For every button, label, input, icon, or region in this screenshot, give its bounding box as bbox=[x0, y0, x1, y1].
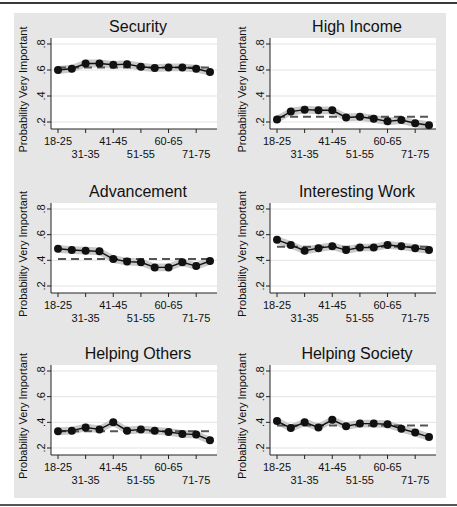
data-point bbox=[273, 236, 281, 244]
x-tick-label: 41-45 bbox=[318, 299, 346, 311]
data-point bbox=[123, 258, 131, 266]
y-tick-label: .8 bbox=[254, 366, 266, 375]
y-tick-label: .8 bbox=[254, 39, 266, 48]
x-tick-label: 41-45 bbox=[99, 135, 127, 147]
x-tick-label: 18-25 bbox=[263, 461, 291, 473]
data-point bbox=[109, 61, 117, 69]
y-tick-label: .6 bbox=[35, 392, 47, 401]
data-point bbox=[384, 117, 392, 125]
data-point bbox=[151, 427, 159, 435]
y-tick-label: .6 bbox=[254, 65, 266, 74]
panel-title: Security bbox=[109, 18, 167, 35]
data-point bbox=[178, 63, 186, 71]
data-point bbox=[314, 244, 322, 252]
data-point bbox=[273, 417, 281, 425]
data-point bbox=[123, 60, 131, 68]
data-point bbox=[356, 244, 364, 252]
panel-advancement: .2.4.6.818-2541-4560-6531-3551-5571-75Ad… bbox=[17, 183, 217, 324]
data-point bbox=[68, 65, 76, 73]
x-tick-label: 60-65 bbox=[373, 461, 401, 473]
y-axis-label: Probability Very Important bbox=[236, 191, 248, 317]
x-tick-label: 18-25 bbox=[44, 299, 72, 311]
data-point bbox=[95, 425, 103, 433]
data-point bbox=[68, 427, 76, 435]
data-point bbox=[109, 255, 117, 263]
data-point bbox=[95, 60, 103, 68]
y-tick-label: .4 bbox=[254, 91, 266, 100]
x-tick-label: 60-65 bbox=[154, 299, 182, 311]
x-tick-label: 60-65 bbox=[373, 299, 401, 311]
x-tick-label: 18-25 bbox=[263, 299, 291, 311]
data-point bbox=[425, 121, 433, 129]
y-tick-label: .4 bbox=[35, 418, 47, 427]
y-tick-label: .4 bbox=[35, 256, 47, 265]
data-point bbox=[82, 423, 90, 431]
data-point bbox=[178, 258, 186, 266]
x-tick-label: 18-25 bbox=[263, 135, 291, 147]
data-point bbox=[384, 420, 392, 428]
panel-helping-society: .2.4.6.818-2541-4560-6531-3551-5571-75He… bbox=[236, 345, 436, 486]
data-point bbox=[123, 427, 131, 435]
data-point bbox=[356, 420, 364, 428]
data-point bbox=[287, 424, 295, 432]
data-point bbox=[206, 436, 214, 444]
data-point bbox=[301, 247, 309, 255]
y-tick-label: .2 bbox=[35, 281, 47, 290]
data-point bbox=[370, 244, 378, 252]
x-tick-label: 51-55 bbox=[127, 312, 155, 324]
data-point bbox=[328, 242, 336, 250]
panel-helping-others: .2.4.6.818-2541-4560-6531-3551-5571-75He… bbox=[17, 345, 217, 486]
data-point bbox=[397, 116, 405, 124]
data-point bbox=[192, 262, 200, 270]
plot-area bbox=[270, 365, 436, 455]
plot-area bbox=[51, 38, 217, 129]
data-point bbox=[206, 257, 214, 265]
x-tick-label: 60-65 bbox=[154, 461, 182, 473]
data-point bbox=[287, 241, 295, 249]
data-point bbox=[287, 108, 295, 116]
y-tick-label: .4 bbox=[254, 256, 266, 265]
x-tick-label: 51-55 bbox=[127, 148, 155, 160]
x-tick-label: 41-45 bbox=[318, 135, 346, 147]
data-point bbox=[370, 420, 378, 428]
x-tick-label: 51-55 bbox=[127, 474, 155, 486]
data-point bbox=[328, 416, 336, 424]
y-tick-label: .6 bbox=[254, 392, 266, 401]
data-point bbox=[301, 418, 309, 426]
plot-area bbox=[51, 365, 217, 455]
x-tick-label: 71-75 bbox=[182, 474, 210, 486]
panel-title: Helping Others bbox=[85, 345, 192, 362]
x-tick-label: 31-35 bbox=[72, 474, 100, 486]
x-tick-label: 51-55 bbox=[346, 474, 374, 486]
y-tick-label: .4 bbox=[35, 91, 47, 100]
data-point bbox=[384, 241, 392, 249]
y-tick-label: .8 bbox=[35, 39, 47, 48]
data-point bbox=[397, 242, 405, 250]
x-tick-label: 71-75 bbox=[401, 312, 429, 324]
data-point bbox=[342, 246, 350, 254]
y-tick-label: .6 bbox=[254, 230, 266, 239]
y-tick-label: .8 bbox=[35, 366, 47, 375]
x-tick-label: 41-45 bbox=[99, 299, 127, 311]
data-point bbox=[192, 65, 200, 73]
x-tick-label: 31-35 bbox=[291, 312, 319, 324]
x-tick-label: 71-75 bbox=[182, 312, 210, 324]
x-tick-label: 31-35 bbox=[72, 312, 100, 324]
data-point bbox=[192, 431, 200, 439]
data-point bbox=[151, 263, 159, 271]
y-tick-label: .2 bbox=[254, 443, 266, 452]
y-tick-label: .2 bbox=[254, 281, 266, 290]
data-point bbox=[301, 106, 309, 114]
x-tick-label: 51-55 bbox=[346, 148, 374, 160]
y-axis-label: Probability Very Important bbox=[236, 27, 248, 153]
data-point bbox=[356, 113, 364, 121]
data-point bbox=[314, 423, 322, 431]
x-tick-label: 41-45 bbox=[99, 461, 127, 473]
panel-high-income: .2.4.6.818-2541-4560-6531-3551-5571-75Hi… bbox=[236, 18, 436, 160]
data-point bbox=[206, 68, 214, 76]
data-point bbox=[165, 263, 173, 271]
data-point bbox=[137, 258, 145, 266]
data-point bbox=[342, 113, 350, 121]
data-point bbox=[411, 429, 419, 437]
data-point bbox=[425, 433, 433, 441]
